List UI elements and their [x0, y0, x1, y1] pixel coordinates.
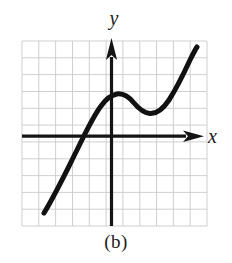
figure-container: y x (b): [0, 0, 232, 263]
y-axis-label: y: [103, 8, 125, 28]
x-axis-label: x: [208, 126, 228, 146]
graph-plot: [0, 0, 232, 263]
figure-caption: (b): [0, 231, 232, 253]
